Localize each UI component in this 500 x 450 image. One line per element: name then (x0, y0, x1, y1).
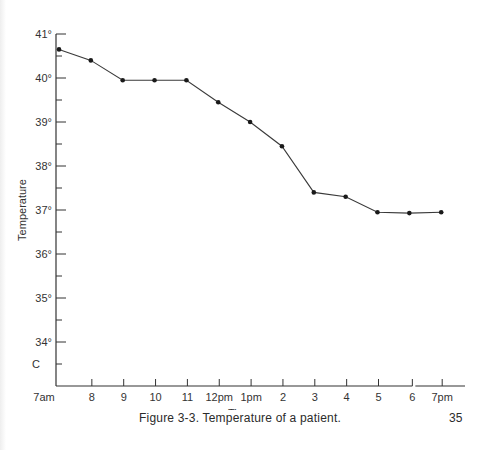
x-tick-label: 7pm (431, 391, 452, 403)
data-point-marker (439, 210, 444, 215)
data-point-marker (248, 120, 253, 125)
x-tick-label: 1pm (240, 391, 261, 403)
y-axis-title: Temperature (16, 179, 28, 241)
x-tick-label: 2 (280, 391, 286, 403)
data-point-marker (312, 190, 317, 195)
y-tick-label: 41° (35, 28, 52, 40)
x-tick-label: 8 (89, 391, 95, 403)
temperature-line-chart: 41°40°39°38°37°36°35°34°CTemperature7am8… (0, 0, 500, 410)
x-tick-label: 6 (409, 391, 415, 403)
y-tick-label: 35° (35, 292, 52, 304)
data-point-marker (280, 144, 285, 149)
data-point-marker (120, 78, 125, 83)
x-tick-label: 7am (33, 391, 54, 403)
y-tick-label: 37° (35, 204, 52, 216)
y-unit-label: C (32, 358, 40, 370)
x-tick-label: 3 (312, 391, 318, 403)
x-tick-label: 9 (121, 391, 127, 403)
data-point-marker (184, 78, 189, 83)
x-tick-label: 10 (149, 391, 161, 403)
temperature-line (59, 49, 441, 213)
figure-caption: Figure 3-3. Temperature of a patient. (139, 411, 341, 425)
data-point-marker (375, 210, 380, 215)
data-point-marker (57, 47, 62, 52)
x-tick-label: 5 (375, 391, 381, 403)
data-point-marker (89, 58, 94, 63)
x-tick-label: 11 (182, 391, 193, 403)
data-point-marker (152, 78, 157, 83)
y-tick-label: 38° (35, 160, 52, 172)
y-tick-label: 36° (35, 248, 52, 260)
page-number: 35 (449, 411, 462, 425)
x-axis-title: Time (228, 407, 252, 410)
x-tick-label: 12pm (205, 391, 233, 403)
y-tick-label: 39° (35, 116, 52, 128)
x-tick-label: 4 (344, 391, 350, 403)
y-tick-label: 34° (35, 336, 52, 348)
data-point-marker (407, 211, 412, 216)
y-tick-label: 40° (35, 72, 52, 84)
data-point-marker (343, 195, 348, 200)
data-point-marker (216, 100, 221, 105)
